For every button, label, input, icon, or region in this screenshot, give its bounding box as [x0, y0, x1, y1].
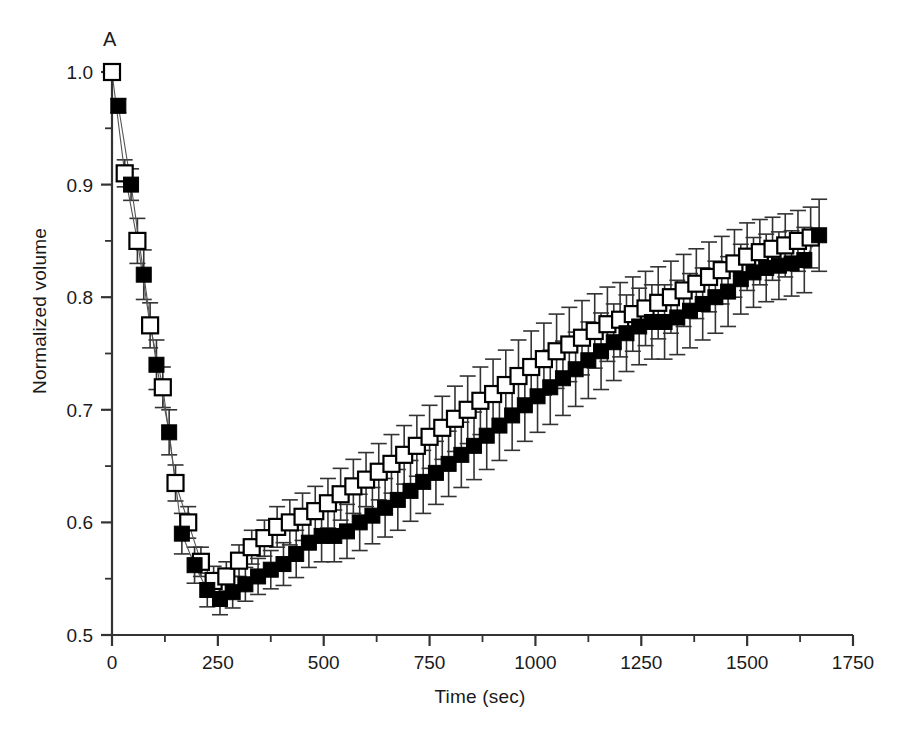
- x-tick-label: 1000: [514, 652, 556, 673]
- error-bars-group: [104, 67, 827, 614]
- x-tick-label: 750: [414, 652, 446, 673]
- series-connector-group: [112, 72, 819, 599]
- axes-group: [112, 72, 853, 635]
- x-ticks-group: 02505007501000125015001750: [107, 635, 874, 673]
- data-point-open-square: [104, 64, 120, 80]
- x-tick-label: 0: [107, 652, 118, 673]
- y-tick-label: 0.6: [67, 512, 93, 533]
- y-axis-title: Normalized volume: [29, 201, 51, 421]
- y-tick-label: 0.7: [67, 400, 93, 421]
- y-tick-label: 0.9: [67, 175, 93, 196]
- data-point-filled-square: [124, 177, 139, 192]
- x-tick-label: 500: [308, 652, 340, 673]
- data-point-filled-square: [136, 267, 151, 282]
- data-point-filled-square: [187, 558, 202, 573]
- data-point-open-square: [155, 379, 171, 395]
- markers-group: [104, 64, 827, 606]
- y-tick-label: 0.8: [67, 287, 93, 308]
- data-point-filled-square: [162, 425, 177, 440]
- data-point-open-square: [129, 233, 145, 249]
- series-connector: [118, 106, 819, 599]
- data-point-filled-square: [111, 98, 126, 113]
- data-point-filled-square: [812, 228, 827, 243]
- chart-canvas: 025050075010001250150017500.50.60.70.80.…: [0, 0, 906, 734]
- x-tick-label: 1750: [832, 652, 874, 673]
- data-point-filled-square: [174, 526, 189, 541]
- y-ticks-group: 0.50.60.70.80.91.0: [67, 62, 112, 646]
- data-point-open-square: [218, 568, 234, 584]
- data-point-filled-square: [149, 357, 164, 372]
- figure-panel-a: 025050075010001250150017500.50.60.70.80.…: [0, 0, 906, 734]
- y-tick-label: 0.5: [67, 625, 93, 646]
- series-connector: [112, 72, 811, 581]
- data-point-open-square: [168, 475, 184, 491]
- data-point-open-square: [142, 317, 158, 333]
- x-tick-label: 1250: [620, 652, 662, 673]
- x-tick-label: 1500: [726, 652, 768, 673]
- panel-label: A: [103, 28, 117, 51]
- x-tick-label: 250: [202, 652, 234, 673]
- y-tick-label: 1.0: [67, 62, 93, 83]
- data-point-filled-square: [797, 253, 812, 268]
- x-axis-title: Time (sec): [330, 686, 630, 708]
